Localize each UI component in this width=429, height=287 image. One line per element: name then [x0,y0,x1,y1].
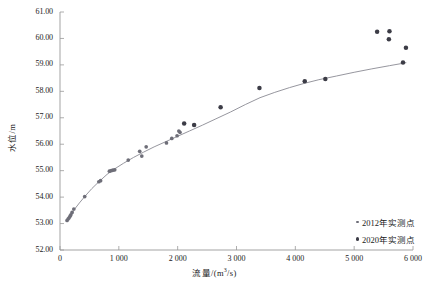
legend-label-2020: 2020年实测点 [362,233,415,245]
y-axis-tick-label: 59.00 [13,59,53,68]
y-axis-tick-label: 53.00 [13,218,53,227]
x-axis-title-base: 流量/(m [192,268,223,278]
x-axis-tick-label: 4 000 [265,254,325,263]
y-axis-tick-label: 57.00 [13,112,53,121]
y-axis-tick-label: 56.00 [13,139,53,148]
x-axis-tick-label: 1 000 [89,254,149,263]
y-axis-tick-label: 61.00 [13,7,53,16]
legend-marker-2012-icon [356,221,359,224]
x-axis-tick-label: 3 000 [207,254,267,263]
y-axis-tick-label: 52.00 [13,245,53,254]
x-axis-title: 流量/(m3/s) [0,266,429,278]
y-axis-tick-label: 55.00 [13,165,53,174]
x-axis-tick-label: 5 000 [324,254,384,263]
x-axis-tick-label: 6 000 [383,254,429,263]
y-axis-tick-label: 60.00 [13,33,53,42]
x-axis-tick-label: 0 [30,254,90,263]
y-axis-tick-label: 54.00 [13,192,53,201]
legend-item-2020: 2020年实测点 [356,233,415,245]
x-axis-title-tail: /s) [227,268,236,278]
x-axis-tick-label: 2 000 [148,254,208,263]
stage-discharge-chart: 水位/m 流量/(m3/s) 2012年实测点 2020年实测点 52.0053… [0,0,429,287]
legend-label-2012: 2012年实测点 [362,216,415,228]
legend-item-2012: 2012年实测点 [356,216,415,228]
y-axis-tick-label: 58.00 [13,86,53,95]
legend-marker-2020-icon [356,237,359,240]
